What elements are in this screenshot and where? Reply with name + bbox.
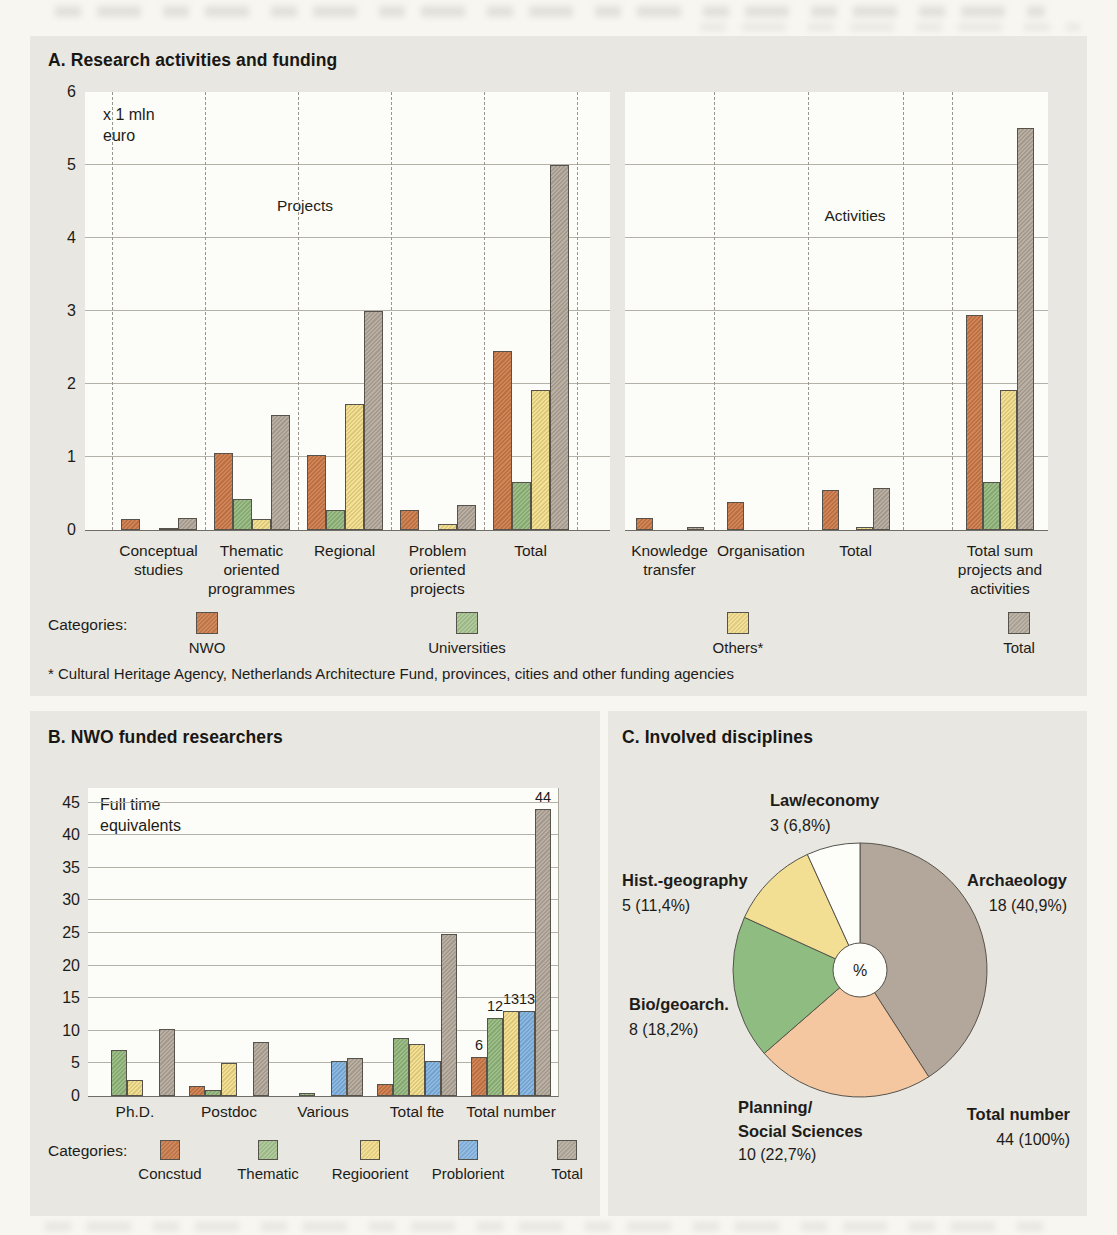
bar-total-regional (364, 311, 383, 530)
pie-label-hist-geography: Hist.-geography 5 (11,4%) (622, 867, 748, 919)
legend-label: Concstud (115, 1165, 225, 1182)
bar-value-label: 13 (503, 991, 519, 1007)
x-axis-label-line: programmes (177, 579, 327, 598)
bar-regioorient-total-fte (409, 1044, 425, 1096)
panel-a-footnote: * Cultural Heritage Agency, Netherlands … (48, 665, 734, 682)
bar-total-total-fte (441, 934, 457, 1096)
bar-nwo-problem (400, 510, 419, 530)
legend-item-concstud: Concstud (115, 1140, 225, 1182)
y-tick-label: 30 (44, 890, 80, 910)
y-tick-label: 35 (44, 858, 80, 878)
pie-center-percent-label: % (853, 962, 867, 979)
y-tick-label: 5 (44, 1053, 80, 1073)
legend-label: NWO (122, 639, 292, 656)
bar-nwo-knowledge (636, 518, 653, 530)
bar-nwo-total (822, 490, 839, 530)
pie-label-archaeology: Archaeology 18 (40,9%) (867, 867, 1067, 919)
bar-total-knowledge (687, 527, 704, 530)
bar-group-total-sum (952, 92, 1048, 530)
bar-universities-total (512, 482, 531, 530)
bar-others-total (531, 390, 550, 530)
bar-group-total-number: 612131344 (464, 788, 558, 1096)
y-tick-label: 20 (44, 956, 80, 976)
x-axis-label-total-number: Total number (436, 1102, 586, 1121)
bar-group-ph-d (88, 788, 182, 1096)
bar-thematic-ph-d (111, 1050, 127, 1096)
bar-universities-thematic (233, 499, 252, 530)
legend-item-regioorient: Regioorient (315, 1140, 425, 1182)
bar-thematic-postdoc (205, 1090, 221, 1096)
bar-group-postdoc (182, 788, 276, 1096)
bar-others-conceptual (159, 528, 178, 530)
legend-swatch-others (727, 612, 749, 634)
x-axis-label-line: transfer (595, 560, 745, 579)
panel-a-research-activities: A. Research activities and funding x 1 m… (30, 36, 1087, 696)
bar-value-label: 6 (475, 1037, 483, 1053)
y-tick-label: 25 (44, 923, 80, 943)
pie-label-planning-social-sciences: Planning/ Social Sciences 10 (22,7%) (738, 1095, 863, 1167)
x-axis-label-line: Total (456, 541, 606, 560)
legend-item-others: Others* (653, 612, 823, 656)
bar-problorient-various (331, 1061, 347, 1096)
bar-concstud-total-number: 6 (471, 1057, 487, 1096)
pie-label-law-economy: Law/economy 3 (6,8%) (770, 787, 879, 839)
x-axis-label-total-sum-projects-and-activities: Total sumprojects andactivities (925, 541, 1075, 598)
bar-universities-total-sum (983, 482, 1000, 530)
page-bleed-through-top (55, 6, 1045, 17)
bar-group-various (276, 788, 370, 1096)
x-axis-label-total: Total (781, 541, 931, 560)
bar-problorient-total-number: 13 (519, 1011, 535, 1096)
x-axis-label-line: Total sum (925, 541, 1075, 560)
bar-total-conceptual (178, 518, 197, 530)
legend-label: Problorient (413, 1165, 523, 1182)
projects-plot: x 1 mln euro Projects (85, 92, 610, 531)
category-separator-line (903, 92, 904, 530)
x-axis-label-line: projects (363, 579, 513, 598)
bar-group-organisation (714, 92, 808, 530)
bar-nwo-conceptual (121, 519, 140, 530)
bar-group-knowledge (625, 92, 714, 530)
legend-label: Total (934, 639, 1104, 656)
legend-item-nwo: NWO (122, 612, 292, 656)
panel-c-involved-disciplines: C. Involved disciplines % Law/economy 3 … (608, 711, 1087, 1216)
bar-others-total-sum (1000, 390, 1017, 530)
activities-plot: Activities (625, 92, 1048, 531)
bar-regioorient-ph-d (127, 1080, 143, 1096)
bar-nwo-organisation (727, 502, 744, 530)
bar-group-conceptual (112, 92, 205, 530)
y-tick-label: 2 (40, 374, 76, 394)
y-tick-label: 0 (40, 520, 76, 540)
legend-label: Total (512, 1165, 622, 1182)
page-bleed-through-top2 (700, 23, 1080, 31)
bar-concstud-total-fte (377, 1084, 393, 1096)
category-separator-line (577, 92, 578, 530)
legend-item-total: Total (512, 1140, 622, 1182)
legend-item-thematic: Thematic (213, 1140, 323, 1182)
bar-others-thematic (252, 519, 271, 530)
bar-group-total (808, 92, 903, 530)
legend-swatch-total (1008, 612, 1030, 634)
bar-nwo-thematic (214, 453, 233, 530)
y-tick-label: 1 (40, 447, 76, 467)
scanned-figure-page: { "page": { "panel_a": { "title": "A. Re… (0, 0, 1117, 1235)
bar-thematic-total-number: 12 (487, 1018, 503, 1096)
bar-value-label: 12 (487, 998, 503, 1014)
legend-swatch-problorient (458, 1140, 478, 1160)
bar-regioorient-postdoc (221, 1063, 237, 1096)
x-axis-label-total: Total (456, 541, 606, 560)
bar-total-total (550, 165, 569, 530)
legend-item-problorient: Problorient (413, 1140, 523, 1182)
panel-a-title: A. Research activities and funding (48, 50, 337, 71)
bar-total-various (347, 1058, 363, 1096)
bar-value-label: 13 (519, 991, 535, 1007)
legend-item-total: Total (934, 612, 1104, 656)
bar-problorient-total-fte (425, 1061, 441, 1096)
bar-nwo-regional (307, 455, 326, 530)
y-tick-label: 6 (40, 82, 76, 102)
bar-nwo-total-sum (966, 315, 983, 530)
bar-total-ph-d (159, 1029, 175, 1096)
page-bleed-through-bottom (45, 1222, 1045, 1231)
bar-group-total (484, 92, 577, 530)
bar-others-total (856, 527, 873, 530)
legend-label: Thematic (213, 1165, 323, 1182)
